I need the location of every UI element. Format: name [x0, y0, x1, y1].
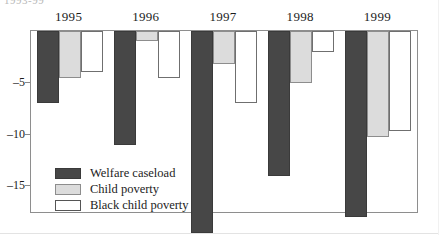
x-axis-category-label-1996: 1996 [107, 7, 185, 27]
bar-1996-child-poverty [136, 31, 158, 41]
y-axis-tick-label: –5 [13, 76, 25, 88]
legend-swatch-dark [55, 168, 81, 179]
scan-artifact-line [0, 233, 439, 234]
legend-label: Child poverty [90, 183, 159, 196]
x-axis-category-labels: 19951996199719981999 [30, 7, 418, 29]
bar-1995-black-child-poverty [81, 31, 103, 72]
bar-1999-child-poverty [367, 31, 389, 137]
y-axis-tick-label: –15 [7, 179, 25, 191]
legend-swatch-white [55, 200, 81, 211]
bar-1999-black-child-poverty [389, 31, 411, 131]
bar-1995-child-poverty [59, 31, 81, 78]
bar-1997-black-child-poverty [235, 31, 257, 103]
bar-1999-welfare-caseload [345, 31, 367, 217]
x-axis-category-label-1998: 1998 [261, 7, 339, 27]
bar-1996-black-child-poverty [158, 31, 180, 78]
y-axis: –5–10–15 [0, 0, 30, 235]
chart-figure: 1993-99 19951996199719981999 –5–10–15 We… [0, 0, 439, 235]
y-axis-tick-label: –10 [7, 128, 25, 140]
bar-1998-black-child-poverty [312, 31, 334, 52]
bar-1996-welfare-caseload [114, 31, 136, 145]
bar-1998-child-poverty [290, 31, 312, 83]
bar-1998-welfare-caseload [268, 31, 290, 176]
x-axis-category-label-1999: 1999 [338, 7, 416, 27]
legend-label: Welfare caseload [90, 167, 175, 180]
legend-label: Black child poverty [90, 199, 189, 212]
legend-swatch-gray [55, 184, 81, 195]
x-axis-category-label-1997: 1997 [184, 7, 262, 27]
bar-1997-child-poverty [213, 31, 235, 64]
bar-1995-welfare-caseload [37, 31, 59, 103]
x-axis-category-label-1995: 1995 [30, 7, 108, 27]
bar-1997-welfare-caseload [191, 31, 213, 233]
